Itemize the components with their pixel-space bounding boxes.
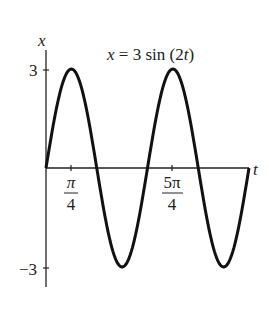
y-axis-label: x [37, 31, 46, 50]
title-close-paren: ) [188, 45, 194, 64]
x-tick-label-pi4-den: 4 [67, 195, 76, 214]
y-tick-label-neg3: −3 [19, 260, 37, 279]
chart-title: x = 3 sin (2t) [106, 45, 194, 64]
x-tick-label-5pi4-num: 5π [163, 173, 181, 192]
x-axis-label: t [253, 160, 259, 179]
x-tick-label-5pi4-den: 4 [168, 195, 177, 214]
x-tick-label-pi4-num: π [67, 173, 76, 192]
title-equation: = 3 sin (2 [119, 45, 184, 64]
title-var-x: x [106, 45, 115, 64]
y-tick-label-3: 3 [29, 61, 38, 80]
chart: x t 3 −3 π 4 5π 4 x = 3 sin (2t) [0, 0, 269, 309]
